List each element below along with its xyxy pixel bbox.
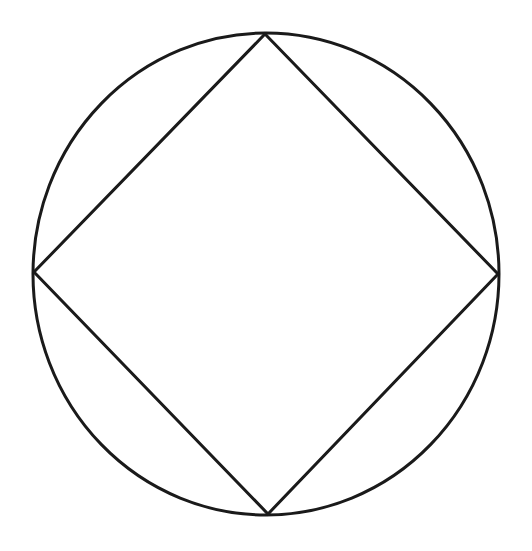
inscribed-square bbox=[34, 34, 498, 514]
circumscribed-circle bbox=[33, 33, 499, 515]
inscribed-square-diagram bbox=[0, 0, 532, 551]
